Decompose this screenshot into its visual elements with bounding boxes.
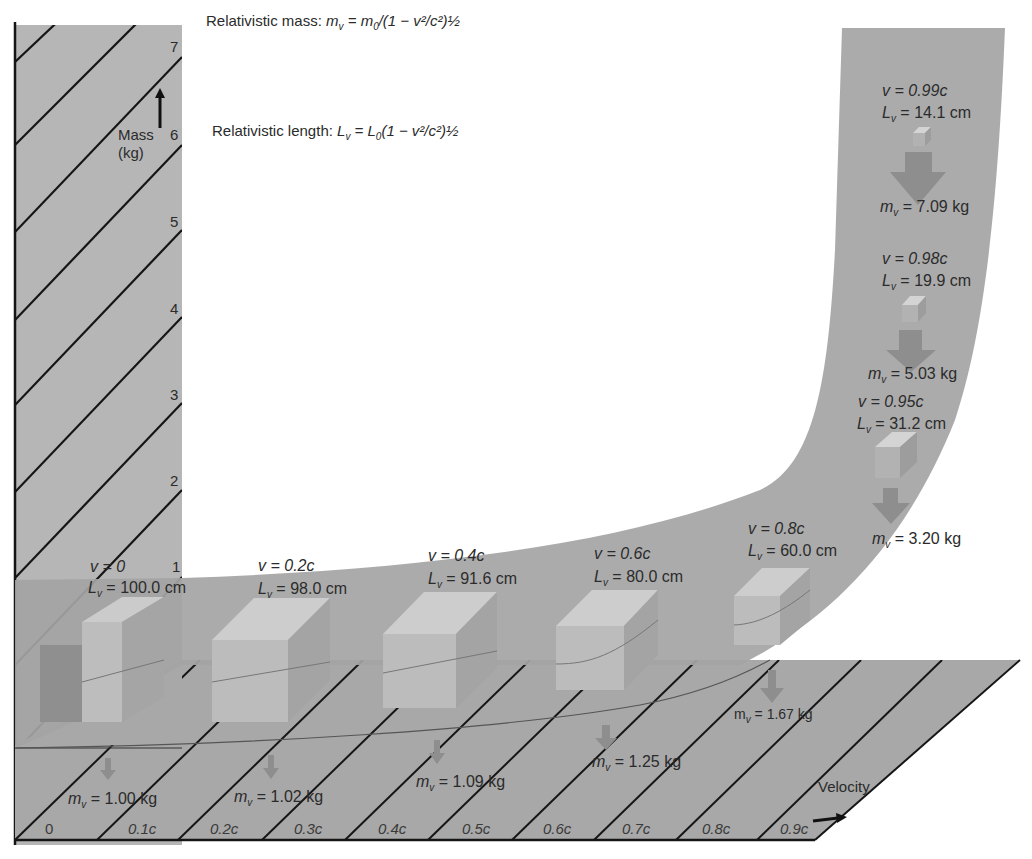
label-text: L bbox=[428, 570, 437, 587]
block-5-mass: mv = 3.20 kg bbox=[872, 530, 961, 554]
y-tick-4: 4 bbox=[170, 300, 178, 317]
label-text: m bbox=[872, 530, 885, 547]
label-text: = 31.2 cm bbox=[871, 415, 946, 432]
block-3-mass: mv = 1.25 kg bbox=[592, 753, 681, 777]
label-text: = 100.0 cm bbox=[102, 579, 186, 596]
label-text: = 5.03 kg bbox=[886, 365, 957, 382]
label-text: = m bbox=[344, 12, 374, 29]
block-1-mass: mv = 1.02 kg bbox=[234, 788, 323, 812]
label-text: m bbox=[880, 198, 893, 215]
x-tick-01: 0.1c bbox=[128, 820, 156, 837]
block-4-length: Lv = 60.0 cm bbox=[748, 542, 837, 566]
block-6-mass: mv = 5.03 kg bbox=[868, 365, 957, 389]
label-text: = 1.25 kg bbox=[610, 753, 681, 770]
y-tick-2: 2 bbox=[170, 472, 178, 489]
label-text: L bbox=[88, 579, 97, 596]
block-7-mass: mv = 7.09 kg bbox=[880, 198, 969, 222]
label-text: L bbox=[748, 542, 757, 559]
block-0-velocity: v = 0 bbox=[90, 558, 125, 576]
label-text: L bbox=[882, 104, 891, 121]
label-text: = 91.6 cm bbox=[442, 570, 517, 587]
x-tick-08: 0.8c bbox=[702, 820, 730, 837]
label-text: = 14.1 cm bbox=[896, 104, 971, 121]
x-tick-02: 0.2c bbox=[210, 820, 238, 837]
x-tick-07: 0.7c bbox=[622, 820, 650, 837]
block-0-mass: mv = 1.00 kg bbox=[68, 790, 157, 814]
block-6-length: Lv = 19.9 cm bbox=[882, 272, 971, 296]
y-tick-6: 6 bbox=[170, 126, 178, 143]
block-7-length: Lv = 14.1 cm bbox=[882, 104, 971, 128]
label-text: L bbox=[857, 415, 866, 432]
label-text: (1 − v²/c²)½ bbox=[381, 122, 458, 139]
label-text: L bbox=[882, 272, 891, 289]
block-2-mass: mv = 1.09 kg bbox=[416, 773, 505, 797]
label-text: L bbox=[594, 568, 603, 585]
label-text: m bbox=[326, 12, 339, 29]
relativistic-length-formula: Relativistic length: Lv = L0(1 − v²/c²)½ bbox=[212, 122, 459, 142]
x-tick-09: 0.9c bbox=[780, 820, 808, 837]
y-axis-label: Mass(kg) bbox=[118, 126, 154, 162]
label-text: = 60.0 cm bbox=[762, 542, 837, 559]
x-tick-04: 0.4c bbox=[378, 820, 406, 837]
label-text: m bbox=[68, 790, 81, 807]
label-text: Relativistic length: bbox=[212, 122, 337, 139]
x-tick-03: 0.3c bbox=[294, 820, 322, 837]
label-text: = 1.67 kg bbox=[751, 706, 813, 722]
block-4-mass: mv = 1.67 kg bbox=[734, 705, 813, 729]
y-tick-7: 7 bbox=[170, 38, 178, 55]
y-tick-3: 3 bbox=[170, 386, 178, 403]
y-tick-5: 5 bbox=[170, 213, 178, 230]
block-7-velocity: v = 0.99c bbox=[882, 82, 947, 100]
x-axis-label: Velocity bbox=[818, 778, 870, 796]
block-5-length: Lv = 31.2 cm bbox=[857, 415, 946, 439]
label-text: m bbox=[734, 706, 746, 722]
label-text: = 3.20 kg bbox=[890, 530, 961, 547]
label-text: m bbox=[868, 365, 881, 382]
label-text: m bbox=[416, 773, 429, 790]
x-tick-0: 0 bbox=[45, 820, 53, 837]
block-1-length: Lv = 98.0 cm bbox=[258, 580, 347, 604]
label-text: m bbox=[234, 788, 247, 805]
label-text: L bbox=[258, 580, 267, 597]
block-2-velocity: v = 0.4c bbox=[428, 547, 484, 565]
block-0-length: Lv = 100.0 cm bbox=[88, 579, 186, 603]
label-text: = 19.9 cm bbox=[896, 272, 971, 289]
label-text: = 1.09 kg bbox=[434, 773, 505, 790]
block-3-velocity: v = 0.6c bbox=[594, 545, 650, 563]
label-text: /(1 − v²/c²)½ bbox=[379, 12, 460, 29]
block-5-velocity: v = 0.95c bbox=[858, 393, 923, 411]
label-text: m bbox=[592, 753, 605, 770]
label-text: = 1.02 kg bbox=[252, 788, 323, 805]
label-text: = 80.0 cm bbox=[608, 568, 683, 585]
label-text: = L bbox=[350, 122, 375, 139]
block-4-velocity: v = 0.8c bbox=[748, 520, 804, 538]
x-tick-05: 0.5c bbox=[462, 820, 490, 837]
label-text: Relativistic mass: bbox=[206, 12, 326, 29]
label-text: = 7.09 kg bbox=[898, 198, 969, 215]
velocity-axis-floor bbox=[15, 660, 1020, 840]
block-1-velocity: v = 0.2c bbox=[258, 557, 314, 575]
label-text: = 98.0 cm bbox=[272, 580, 347, 597]
block-2-length: Lv = 91.6 cm bbox=[428, 570, 517, 594]
y-tick-1: 1 bbox=[172, 558, 180, 575]
label-text: = 1.00 kg bbox=[86, 790, 157, 807]
x-tick-06: 0.6c bbox=[543, 820, 571, 837]
relativistic-mass-formula: Relativistic mass: mv = m0/(1 − v²/c²)½ bbox=[206, 12, 460, 32]
block-3-length: Lv = 80.0 cm bbox=[594, 568, 683, 592]
block-6-velocity: v = 0.98c bbox=[882, 250, 947, 268]
